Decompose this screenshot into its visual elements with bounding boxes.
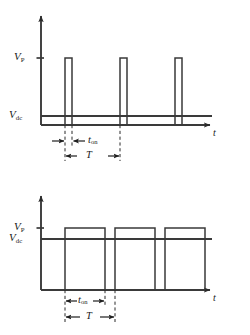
- pulse-bottom-3: [165, 228, 205, 290]
- pulse-bottom-1: [65, 228, 105, 290]
- time-axis-label-bottom: t: [213, 293, 216, 303]
- pulse-top-2: [120, 58, 127, 125]
- pulse-top-3: [175, 58, 182, 125]
- vp-label-top: VP: [14, 51, 25, 63]
- chart-bottom: [37, 196, 213, 322]
- period-label-bottom: T: [86, 311, 92, 322]
- ton-label-bottom: ton: [78, 295, 88, 306]
- waveform-canvas: [0, 0, 250, 335]
- chart-top: [37, 16, 213, 161]
- page-edge-artifact: [0, 327, 250, 335]
- ton-label-top: ton: [88, 135, 98, 146]
- pulse-bottom-2: [115, 228, 155, 290]
- vdc-label-bottom: Vdc: [9, 232, 22, 244]
- pulse-top-1: [65, 58, 72, 125]
- period-label-top: T: [86, 150, 92, 161]
- waveform-figure: VP Vdc ton T t VP Vdc ton T t: [0, 0, 250, 335]
- vdc-label-top: Vdc: [9, 109, 22, 121]
- time-axis-label-top: t: [213, 128, 216, 138]
